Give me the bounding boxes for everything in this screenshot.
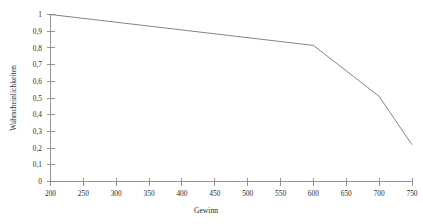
chart-canvas: 00,10,20,30,40,50,60,70,80,91 2002503003… xyxy=(0,0,423,224)
x-tick-label: 500 xyxy=(242,189,253,198)
y-tick-label: 0,3 xyxy=(33,127,43,136)
y-tick-label: 1 xyxy=(38,10,42,19)
y-tick-label: 0,6 xyxy=(33,77,43,86)
x-tick-label: 300 xyxy=(111,189,122,198)
y-axis-title: Wahrscheinlichkeiten xyxy=(9,65,18,131)
x-tick-label: 600 xyxy=(308,189,319,198)
line-chart-figure: 00,10,20,30,40,50,60,70,80,91 2002503003… xyxy=(0,0,423,224)
x-tick-label: 700 xyxy=(374,189,385,198)
x-tick-label: 350 xyxy=(144,189,155,198)
y-tick-label: 0,9 xyxy=(33,27,43,36)
x-tick-label: 750 xyxy=(406,189,417,198)
x-tick-label: 650 xyxy=(341,189,352,198)
x-tick-label: 550 xyxy=(275,189,286,198)
y-tick-label: 0 xyxy=(38,177,42,186)
y-tick-label: 0,1 xyxy=(33,160,43,169)
x-tick-label: 400 xyxy=(176,189,187,198)
y-tick-label: 0,8 xyxy=(33,44,43,53)
y-tick-label: 0,2 xyxy=(33,144,43,153)
x-tick-label: 450 xyxy=(209,189,220,198)
x-tick-label: 200 xyxy=(45,189,56,198)
y-tick-label: 0,4 xyxy=(33,110,43,119)
x-axis-title: Gewinn xyxy=(194,206,218,215)
x-tick-label: 250 xyxy=(78,189,89,198)
y-tick-label: 0,5 xyxy=(33,94,43,103)
y-tick-label: 0,7 xyxy=(33,60,43,69)
